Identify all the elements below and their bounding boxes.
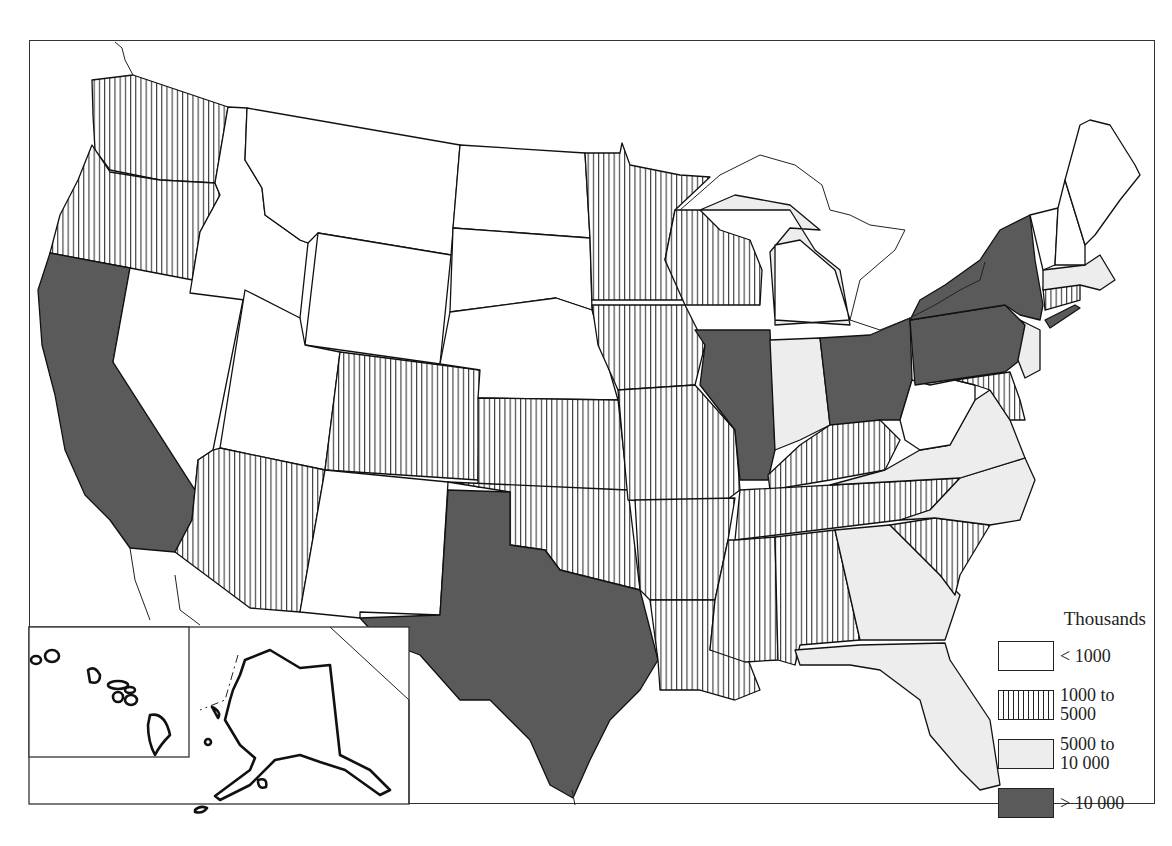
- legend-label-mid: 1000 to 5000: [1060, 686, 1115, 724]
- state-new-york: [910, 215, 1043, 320]
- state-washington: [92, 75, 228, 183]
- legend-label-low: < 1000: [1060, 647, 1111, 666]
- state-new-mexico: [300, 470, 448, 618]
- state-wyoming: [305, 233, 451, 364]
- canada-border: [115, 42, 133, 75]
- legend-swatch-mid: [998, 690, 1054, 720]
- legend-label-high: 5000 to 10 000: [1060, 735, 1115, 773]
- state-florida: [795, 643, 1000, 790]
- legend-item-low: < 1000: [998, 636, 1148, 676]
- legend-item-top: > 10 000: [998, 783, 1148, 823]
- state-colorado: [325, 352, 480, 480]
- state-kansas: [478, 398, 628, 490]
- hawaii-inset-frame: [29, 627, 189, 757]
- legend-swatch-high: [998, 739, 1054, 769]
- legend-label-top: > 10 000: [1060, 794, 1124, 813]
- legend: Thousands < 1000 1000 to 5000 5000 to 10…: [998, 608, 1148, 832]
- legend-swatch-top: [998, 788, 1054, 818]
- us-population-map: [0, 0, 1172, 846]
- legend-item-mid: 1000 to 5000: [998, 685, 1148, 725]
- state-north-dakota: [453, 145, 590, 238]
- state-south-dakota: [450, 228, 592, 312]
- state-arizona: [175, 448, 325, 612]
- legend-swatch-low: [998, 641, 1054, 671]
- state-wisconsin: [665, 210, 762, 305]
- legend-item-high: 5000 to 10 000: [998, 734, 1148, 774]
- legend-title: Thousands: [998, 608, 1148, 630]
- state-ohio: [820, 318, 912, 425]
